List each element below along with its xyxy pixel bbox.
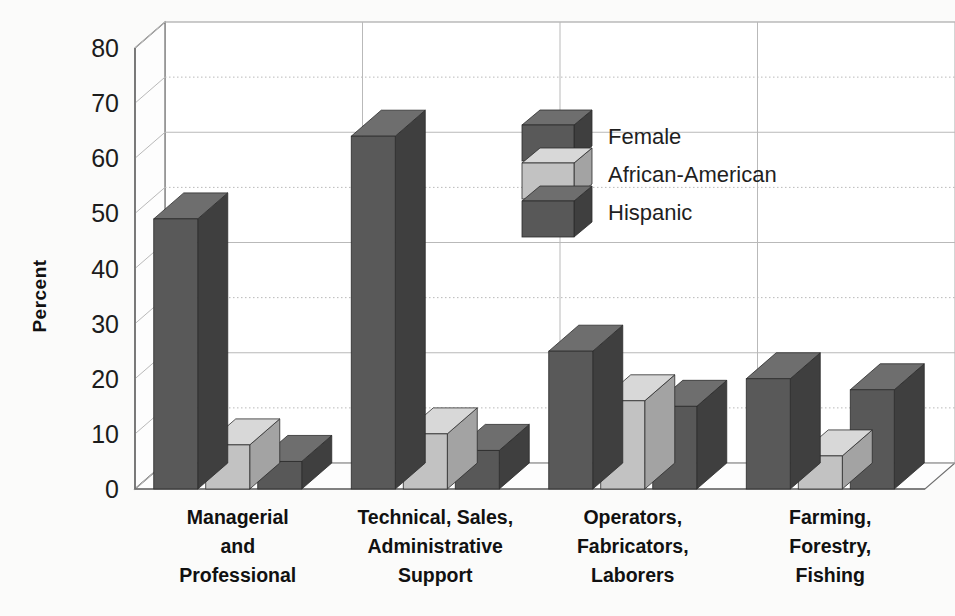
y-tick-label: 20 (91, 365, 119, 393)
x-category-label-line: Forestry, (789, 535, 871, 557)
y-tick-label: 60 (91, 144, 119, 172)
x-category-label-line: and (220, 535, 255, 557)
x-category-label-line: Operators, (583, 506, 682, 528)
x-category-label-line: Farming, (789, 506, 871, 528)
x-category-label-line: Support (398, 564, 473, 586)
y-axis-tick-labels: 80706050403020100 (91, 34, 119, 503)
y-tick-label: 50 (91, 199, 119, 227)
y-tick-label: 0 (105, 475, 119, 503)
bar-front-face (351, 136, 395, 489)
y-axis-title: Percent (29, 259, 50, 332)
x-axis-category-labels: ManagerialandProfessionalTechnical, Sale… (179, 506, 871, 586)
x-category-label-line: Professional (179, 564, 296, 586)
x-category-label-line: Laborers (591, 564, 675, 586)
bar-side-face (198, 193, 228, 489)
y-tick-label: 40 (91, 255, 119, 283)
legend-label: Hispanic (608, 200, 692, 225)
x-category-label-line: Managerial (187, 506, 289, 528)
x-category-label-line: Administrative (368, 535, 504, 557)
y-tick-label: 80 (91, 34, 119, 62)
bar-front-face (154, 219, 198, 489)
legend-swatch-front (522, 201, 574, 237)
legend-label: African-American (608, 162, 777, 187)
x-category-label-line: Technical, Sales, (357, 506, 513, 528)
x-category-label-line: Fabricators, (577, 535, 689, 557)
bar-3d (351, 110, 425, 489)
y-tick-label: 10 (91, 420, 119, 448)
y-tick-label: 30 (91, 310, 119, 338)
bar-front-face (549, 351, 593, 489)
y-axis-title-group: Percent (29, 259, 50, 332)
bar-side-face (395, 110, 425, 489)
bar-3d (154, 193, 228, 489)
bar-3d (746, 353, 820, 489)
bar-chart: 80706050403020100 ManagerialandProfessio… (0, 0, 955, 616)
x-category-label-line: Fishing (796, 564, 865, 586)
bar-front-face (746, 379, 790, 489)
legend-label: Female (608, 124, 681, 149)
chart-container: 80706050403020100 ManagerialandProfessio… (0, 0, 955, 616)
bar-side-face (593, 325, 623, 489)
y-tick-label: 70 (91, 89, 119, 117)
bar-3d (549, 325, 623, 489)
